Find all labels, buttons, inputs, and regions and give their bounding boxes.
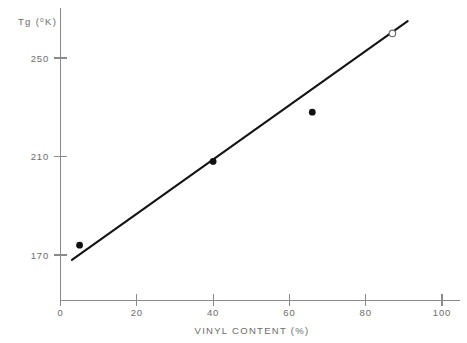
data-point-open — [389, 30, 395, 36]
linear-fit-line — [72, 21, 408, 260]
x-tick-label: 60 — [283, 307, 295, 318]
x-tick-label: 40 — [207, 307, 219, 318]
y-axis-title: Tg (oK) — [18, 16, 57, 28]
x-tick-label: 100 — [433, 307, 451, 318]
x-axis-ticks: 020406080100 — [57, 294, 451, 318]
chart-figure: 170210250 020406080100 Tg (oK) VINYL CON… — [0, 0, 467, 343]
x-tick-label: 20 — [131, 307, 143, 318]
scatter-plot: 170210250 020406080100 Tg (oK) VINYL CON… — [0, 0, 467, 343]
y-axis-ticks: 170210250 — [31, 53, 67, 261]
data-point-filled — [76, 242, 83, 249]
x-tick-label: 80 — [360, 307, 372, 318]
x-tick-label: 0 — [57, 307, 63, 318]
y-tick-label: 250 — [31, 53, 49, 64]
x-axis-title: VINYL CONTENT (%) — [195, 325, 310, 336]
y-tick-label: 210 — [31, 151, 49, 162]
y-tick-label: 170 — [31, 250, 49, 261]
data-point-filled — [210, 158, 217, 165]
y-axis-title-tail: K) — [45, 16, 57, 27]
data-point-filled — [309, 109, 316, 116]
regression-line — [72, 21, 408, 260]
y-axis-title-base: Tg ( — [18, 16, 40, 27]
